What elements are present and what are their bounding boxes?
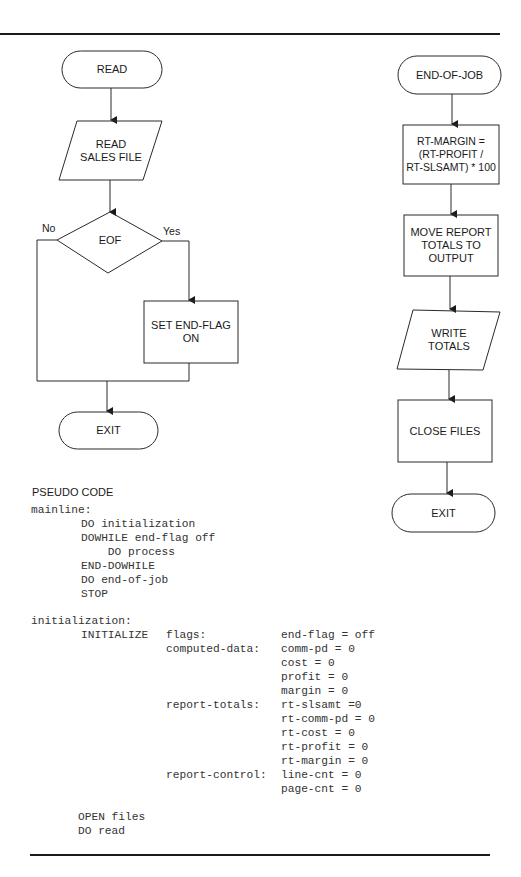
mainline-line: DOWHILE end-flag off (81, 531, 215, 545)
group-item: cost = 0 (281, 656, 335, 670)
mainline-line: STOP (81, 587, 108, 601)
group-item: line-cnt = 0 (281, 768, 362, 782)
group-item: rt-margin = 0 (281, 754, 368, 768)
initialize-keyword: INITIALIZE (81, 628, 148, 642)
group-name: computed-data: (166, 642, 260, 656)
end-of-job-label: END-OF-JOB (398, 56, 501, 94)
group-item: comm-pd = 0 (281, 642, 355, 656)
initialization-label: initialization: (31, 614, 132, 628)
mainline-label: mainline: (31, 503, 91, 517)
set-end-flag-label: SET END-FLAG ON (144, 301, 238, 363)
read-terminal-label: READ (62, 51, 162, 88)
group-name: report-control: (166, 768, 267, 782)
mainline-line: DO initialization (81, 517, 195, 531)
group-item: margin = 0 (281, 684, 348, 698)
group-name: flags: (166, 628, 206, 642)
mainline-line: DO end-of-job (81, 573, 168, 587)
yes-label: Yes (163, 225, 180, 237)
mainline-line: DO process (81, 545, 175, 559)
pseudo-code-heading: PSEUDO CODE (32, 486, 113, 498)
group-item: end-flag = off (281, 628, 375, 642)
trailing-line: OPEN files (78, 810, 145, 824)
group-item: page-cnt = 0 (281, 782, 362, 796)
eof-label: EOF (80, 232, 140, 248)
move-report-totals-label: MOVE REPORT TOTALS TO OUTPUT (404, 215, 498, 276)
group-item: rt-profit = 0 (281, 740, 368, 754)
group-item: rt-cost = 0 (281, 726, 355, 740)
group-item: profit = 0 (281, 670, 348, 684)
read-sales-file-label: READ SALES FILE (62, 121, 160, 180)
write-totals-label: WRITE TOTALS (400, 310, 498, 370)
rt-margin-label: RT-MARGIN = (RT-PROFIT / RT-SLSAMT) * 10… (400, 125, 502, 184)
exit-left-label: EXIT (59, 412, 158, 449)
exit-right-label: EXIT (392, 494, 495, 532)
trailing-line: DO read (78, 824, 125, 838)
group-item: rt-slsamt =0 (281, 698, 362, 712)
mainline-line: END-DOWHILE (81, 559, 155, 573)
no-label: No (42, 222, 55, 234)
close-files-label: CLOSE FILES (398, 400, 492, 462)
group-item: rt-comm-pd = 0 (281, 712, 375, 726)
group-name: report-totals: (166, 698, 260, 712)
